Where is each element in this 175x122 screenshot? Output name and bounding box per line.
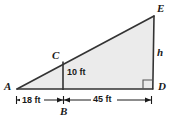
geometry-figure: A B C D E h 10 ft 18 ft 45 ft (0, 0, 175, 122)
vertex-label-e: E (157, 3, 164, 14)
vertex-label-b: B (60, 106, 67, 117)
vertex-label-a: A (4, 81, 11, 92)
dimension-18ft-arrow-right (57, 98, 63, 103)
height-label-h: h (157, 47, 163, 58)
vertex-label-c: C (52, 50, 59, 61)
vertex-label-d: D (158, 81, 166, 92)
measure-label-cb: 10 ft (67, 68, 86, 77)
dimension-45ft-arrow-right (145, 98, 151, 103)
dimension-45ft-arrow-left (64, 98, 70, 103)
measure-label-bd: 45 ft (93, 95, 112, 104)
measure-label-ab: 18 ft (22, 96, 41, 105)
